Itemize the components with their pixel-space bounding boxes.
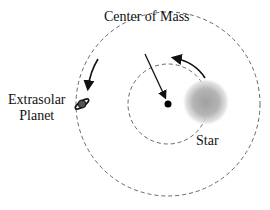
center-of-mass-dot [165,101,172,108]
planet-label-line1: Extrasolar [8,92,66,108]
planet-label-line2: Planet [8,108,66,124]
star-motion-arrow [174,58,205,78]
planet-motion-arrow [88,59,98,88]
center-of-mass-label: Center of Mass [104,9,190,25]
orbit-diagram: Center of Mass Extrasolar Planet Star [0,0,270,210]
star-glow [182,78,230,126]
star-label: Star [196,133,219,149]
center-of-mass-pointer-arrow [145,54,165,97]
planet-label: Extrasolar Planet [8,92,66,124]
